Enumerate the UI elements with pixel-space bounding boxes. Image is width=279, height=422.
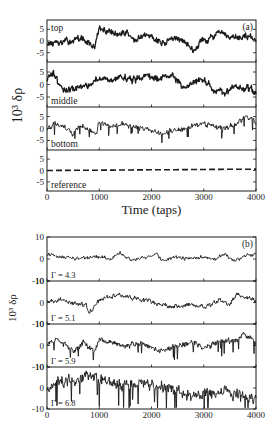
y-tick-label: -5 <box>37 92 45 102</box>
y-axis-label: 10³ δρ <box>6 294 18 322</box>
row-label: Γ = 5.9 <box>51 356 76 366</box>
x-tick-label: 0 <box>45 192 50 202</box>
y-tick-label: 0 <box>40 36 45 46</box>
figure: -505top-505middle-505bottom-505reference… <box>0 0 279 422</box>
trace-row-2: -10010Γ = 5.9 <box>32 319 256 372</box>
y-tick-label: 0 <box>40 166 45 176</box>
row-label: reference <box>51 180 86 190</box>
x-tick-label: 3000 <box>195 410 214 420</box>
y-axis-label: 10³ δρ <box>10 88 25 123</box>
y-tick-label: 0 <box>40 124 45 134</box>
y-tick-label: -5 <box>37 48 45 58</box>
y-tick-label: -5 <box>37 135 45 145</box>
trace-line <box>47 332 256 360</box>
y-tick-label: 10 <box>35 362 45 372</box>
y-tick-label: 5 <box>40 24 45 34</box>
y-tick-label: 10 <box>35 232 45 242</box>
panel-b: -10010Γ = 4.3-10010Γ = 5.1-10010Γ = 5.9-… <box>6 232 266 420</box>
y-tick-label: -10 <box>32 404 44 414</box>
y-tick-label: 0 <box>40 254 45 264</box>
row-label: Γ = 4.3 <box>51 270 76 280</box>
trace-row-3: -505reference <box>37 150 257 191</box>
row-label: Γ = 6.8 <box>51 398 76 408</box>
y-tick-label: 10 <box>35 276 45 286</box>
trace-line <box>47 169 256 170</box>
panel-label: (a) <box>242 22 253 33</box>
trace-line <box>47 371 256 408</box>
x-tick-label: 1000 <box>90 410 109 420</box>
row-label: middle <box>51 96 77 106</box>
trace-line <box>47 116 256 143</box>
x-axis-label: Time (taps) <box>122 202 182 217</box>
x-tick-label: 2000 <box>143 192 162 202</box>
x-tick-label: 3000 <box>195 192 214 202</box>
y-tick-label: -5 <box>37 177 45 187</box>
trace-line <box>47 26 256 52</box>
y-tick-label: 0 <box>40 341 45 351</box>
row-label: Γ = 5.1 <box>51 313 76 323</box>
x-tick-label: 1000 <box>90 192 109 202</box>
trace-row-2: -505bottom <box>37 107 257 150</box>
y-tick-label: 5 <box>40 112 45 122</box>
row-label: bottom <box>51 139 79 149</box>
y-tick-label: 0 <box>40 80 45 90</box>
x-tick-label: 0 <box>45 410 50 420</box>
trace-row-1: -505middle <box>37 62 257 107</box>
trace-line <box>47 293 256 313</box>
y-tick-label: 5 <box>40 154 45 164</box>
panel-a: -505top-505middle-505bottom-505reference… <box>10 20 266 217</box>
trace-row-3: -10010Γ = 6.8 <box>32 362 256 414</box>
row-label: top <box>51 23 63 33</box>
y-tick-label: 10 <box>35 319 45 329</box>
x-tick-label: 2000 <box>143 410 162 420</box>
trace-line <box>47 251 256 261</box>
x-tick-label: 4000 <box>247 192 266 202</box>
y-tick-label: 0 <box>40 298 45 308</box>
y-tick-label: 5 <box>40 67 45 77</box>
x-tick-label: 4000 <box>247 410 266 420</box>
trace-row-0: -505top <box>37 23 257 62</box>
y-tick-label: 0 <box>40 383 45 393</box>
trace-row-0: -10010Γ = 4.3 <box>32 232 256 286</box>
panel-label: (b) <box>242 239 253 250</box>
trace-line <box>47 71 256 97</box>
trace-row-1: -10010Γ = 5.1 <box>32 276 256 329</box>
